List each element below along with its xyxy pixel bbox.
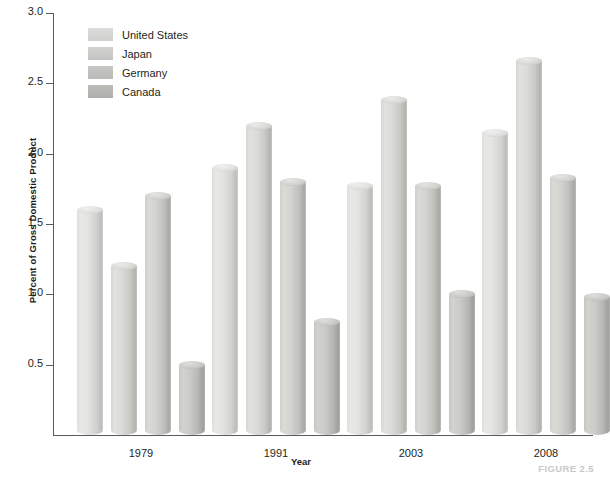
legend-item-japan[interactable]: Japan — [88, 44, 258, 63]
bar-germany-2008[interactable] — [550, 178, 576, 435]
bar-japan-1979[interactable] — [111, 266, 137, 435]
y-axis-tick: 2.5 — [53, 83, 54, 84]
y-axis-tick: 1.0 — [53, 294, 54, 295]
bar-cap-ellipse — [347, 182, 373, 190]
bar-body — [246, 126, 272, 435]
legend-label: Canada — [122, 86, 161, 98]
bar-japan-2003[interactable] — [381, 100, 407, 435]
y-axis-tick-mark — [46, 294, 53, 295]
bar-canada-1991[interactable] — [314, 322, 340, 435]
bar-united-states-1979[interactable] — [77, 210, 103, 435]
bar-canada-2003[interactable] — [449, 294, 475, 435]
bar-body — [415, 186, 441, 435]
legend-swatch — [88, 66, 113, 79]
bar-canada-1979[interactable] — [179, 365, 205, 435]
bar-cap-ellipse — [482, 129, 508, 137]
bar-body — [280, 182, 306, 435]
y-axis-tick: 0.5 — [53, 365, 54, 366]
bar-cap-ellipse — [179, 361, 205, 369]
x-axis-tick-label: 1991 — [212, 447, 340, 459]
bar-cap-ellipse — [246, 122, 272, 130]
y-axis-tick: 3.0 — [53, 13, 54, 14]
legend-swatch — [88, 47, 113, 60]
bar-group: 2008 — [482, 13, 610, 435]
bar-cap-ellipse — [212, 164, 238, 172]
y-axis-tick-mark — [46, 154, 53, 155]
bar-japan-1991[interactable] — [246, 126, 272, 435]
y-axis-tick-label: 0.5 — [3, 357, 43, 369]
legend-item-canada[interactable]: Canada — [88, 82, 258, 101]
bar-canada-2008[interactable] — [584, 297, 610, 435]
bar-united-states-2003[interactable] — [347, 186, 373, 435]
bar-united-states-1991[interactable] — [212, 168, 238, 435]
bar-body — [381, 100, 407, 435]
bar-germany-2003[interactable] — [415, 186, 441, 435]
bar-united-states-2008[interactable] — [482, 133, 508, 435]
x-axis-tick-label: 2003 — [347, 447, 475, 459]
bar-body — [111, 266, 137, 435]
legend-item-united-states[interactable]: United States — [88, 25, 258, 44]
legend-label: United States — [122, 29, 188, 41]
y-axis-tick: 2.0 — [53, 154, 54, 155]
y-axis-tick: 1.5 — [53, 224, 54, 225]
bar-body — [516, 61, 542, 435]
bar-cap-ellipse — [415, 182, 441, 190]
bar-cap-ellipse — [550, 174, 576, 182]
x-axis-line — [53, 435, 593, 436]
bar-cap-ellipse — [516, 57, 542, 65]
bar-body — [179, 365, 205, 435]
bar-body — [482, 133, 508, 435]
x-axis-tick-label: 2008 — [482, 447, 610, 459]
bar-body — [314, 322, 340, 435]
bar-germany-1979[interactable] — [145, 196, 171, 435]
bar-body — [77, 210, 103, 435]
bar-cap-ellipse — [280, 178, 306, 186]
y-axis-tick-label: 1.0 — [3, 286, 43, 298]
bar-cap-ellipse — [145, 192, 171, 200]
bar-body — [347, 186, 373, 435]
y-axis-tick-mark — [46, 224, 53, 225]
bar-body — [145, 196, 171, 435]
y-axis-tick-mark — [46, 365, 53, 366]
y-axis-tick-mark — [46, 83, 53, 84]
x-axis-tick-label: 1979 — [77, 447, 205, 459]
chart-legend: United StatesJapanGermanyCanada — [88, 25, 258, 101]
legend-label: Japan — [122, 48, 152, 60]
bar-japan-2008[interactable] — [516, 61, 542, 435]
legend-label: Germany — [122, 67, 167, 79]
legend-swatch — [88, 28, 113, 41]
bar-germany-1991[interactable] — [280, 182, 306, 435]
y-axis-tick-label: 3.0 — [3, 5, 43, 17]
bar-group: 2003 — [347, 13, 475, 435]
bar-body — [212, 168, 238, 435]
figure-caption: FIGURE 2.5 — [538, 463, 594, 474]
bar-body — [550, 178, 576, 435]
y-axis-tick-label: 2.0 — [3, 146, 43, 158]
y-axis-tick-label: 1.5 — [3, 216, 43, 228]
legend-item-germany[interactable]: Germany — [88, 63, 258, 82]
bar-cap-ellipse — [77, 206, 103, 214]
bar-body — [449, 294, 475, 435]
legend-swatch — [88, 85, 113, 98]
y-axis-tick-label: 2.5 — [3, 75, 43, 87]
y-axis-tick-mark — [46, 13, 53, 14]
bar-body — [584, 297, 610, 435]
